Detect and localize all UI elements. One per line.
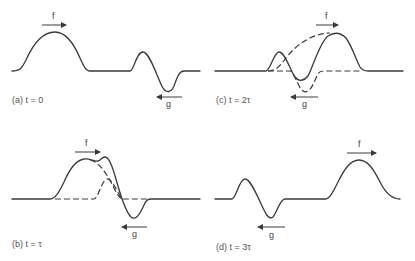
panel-a-caption: (a) t = 0 bbox=[12, 95, 43, 105]
panel-a: f g (a) t = 0 bbox=[12, 11, 200, 109]
panel-c-g-pulse bbox=[268, 71, 360, 92]
g-label: g bbox=[166, 99, 171, 109]
panel-c-f-pulse bbox=[268, 33, 330, 71]
f-label: f bbox=[52, 11, 55, 21]
panel-b-caption: (b) t = τ bbox=[12, 239, 42, 249]
f-label: f bbox=[325, 11, 328, 21]
g-label: g bbox=[269, 230, 274, 240]
g-label: g bbox=[302, 99, 307, 109]
wave-superposition-diagram: f g (a) t = 0 f g (c) t = 2τ f g (b) t =… bbox=[0, 0, 415, 261]
panel-d: f g (d) t = 3τ bbox=[215, 139, 400, 252]
f-label: f bbox=[358, 139, 361, 149]
panel-b-waveform bbox=[12, 157, 200, 218]
panel-d-caption: (d) t = 3τ bbox=[216, 242, 251, 252]
panel-a-waveform bbox=[12, 32, 200, 92]
panel-c-caption: (c) t = 2τ bbox=[216, 95, 251, 105]
panel-c: f g (c) t = 2τ bbox=[215, 11, 403, 109]
g-label: g bbox=[132, 229, 137, 239]
panel-c-waveform bbox=[215, 33, 403, 80]
panel-b-g-pulse bbox=[55, 179, 148, 199]
f-label: f bbox=[85, 138, 88, 148]
panel-b: f g (b) t = τ bbox=[12, 138, 200, 249]
panel-d-waveform bbox=[215, 160, 400, 218]
